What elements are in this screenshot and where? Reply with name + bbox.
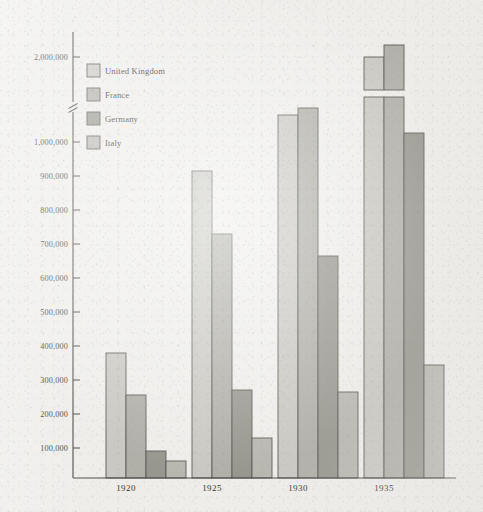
y-tick-label: 2,000,000 [34,53,68,62]
bar-united-kingdom-1930[interactable] [278,115,298,478]
bar-group-1935 [364,45,444,478]
legend-item-italy[interactable]: Italy [87,136,122,149]
x-tick-label-1935: 1935 [374,483,394,493]
y-tick-label: 800,000 [40,206,68,215]
bar-united-kingdom-1935[interactable] [364,97,384,478]
y-tick-label: 900,000 [40,172,68,181]
x-tick-label-1925: 1925 [202,483,222,493]
bar-germany-1920[interactable] [146,451,166,478]
bar-france-1925[interactable] [212,234,232,478]
legend-label-italy: Italy [105,138,122,148]
y-tick-label: 200,000 [40,410,68,419]
chart-canvas: 2,000,000 1,000,000 900,000 800,000 700,… [0,0,483,512]
legend-item-united-kingdom[interactable]: United Kingdom [87,64,165,77]
y-tick-label: 100,000 [40,444,68,453]
legend-swatch-germany [87,112,100,125]
x-axis: 1920 1925 1930 1935 [73,478,456,493]
bar-italy-1935[interactable] [424,365,444,478]
y-axis [69,32,78,478]
bar-united-kingdom-1935-upper[interactable] [364,57,384,90]
legend-item-france[interactable]: France [87,88,129,101]
x-tick-label-1920: 1920 [116,483,136,493]
legend-label-germany: Germany [105,114,139,124]
y-tick-label: 700,000 [40,240,68,249]
bar-chart-figure: 2,000,000 1,000,000 900,000 800,000 700,… [0,0,483,512]
y-tick-label: 300,000 [40,376,68,385]
legend-label-france: France [105,90,129,100]
bar-italy-1925[interactable] [252,438,272,478]
y-axis-break-marker [69,104,78,113]
legend-swatch-france [87,88,100,101]
y-tick-label: 1,000,000 [34,138,68,147]
bar-france-1935[interactable] [384,97,404,478]
legend-swatch-united-kingdom [87,64,100,77]
bar-france-1920[interactable] [126,395,146,478]
bar-italy-1920[interactable] [166,461,186,478]
bar-united-kingdom-1925[interactable] [192,171,212,478]
bar-germany-1930[interactable] [318,256,338,478]
y-tick-label: 400,000 [40,342,68,351]
legend: United Kingdom France Germany Italy [87,64,165,149]
x-tick-label-1930: 1930 [288,483,308,493]
y-tick-label: 600,000 [40,274,68,283]
y-tick-label: 500,000 [40,308,68,317]
bar-germany-1925[interactable] [232,390,252,478]
bar-france-1935-upper[interactable] [384,45,404,90]
bar-group-1930 [278,108,358,478]
bar-group-1920 [106,353,186,478]
bar-group-1925 [192,171,272,478]
bar-france-1930[interactable] [298,108,318,478]
legend-item-germany[interactable]: Germany [87,112,139,125]
legend-swatch-italy [87,136,100,149]
bar-germany-1935[interactable] [404,133,424,478]
bar-italy-1930[interactable] [338,392,358,478]
bar-united-kingdom-1920[interactable] [106,353,126,478]
legend-label-united-kingdom: United Kingdom [105,66,165,76]
